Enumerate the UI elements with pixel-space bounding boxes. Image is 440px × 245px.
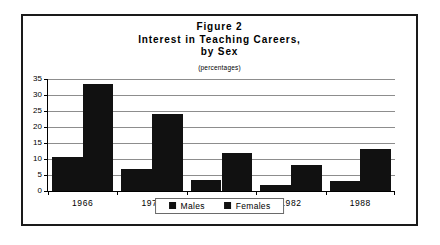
x-axis-tick xyxy=(187,191,188,195)
x-axis-tick xyxy=(256,191,257,195)
legend-swatch-icon xyxy=(224,202,231,209)
legend-label-males: Males xyxy=(181,202,205,211)
y-axis-tick xyxy=(44,111,48,112)
y-axis-label: 15 xyxy=(33,139,42,147)
x-axis-label-1988: 1988 xyxy=(350,198,371,208)
x-axis-tick xyxy=(48,191,49,195)
bar-males-1988 xyxy=(330,181,361,191)
chart-subtitle: (percentages) xyxy=(23,64,416,72)
x-axis-label-1966: 1966 xyxy=(72,198,93,208)
y-axis-tick xyxy=(44,95,48,96)
x-axis-tick xyxy=(394,191,395,195)
bar-females-1988 xyxy=(360,149,391,191)
figure-frame: Figure 2 Interest in Teaching Careers, b… xyxy=(21,14,418,226)
legend-item-males: Males xyxy=(169,202,205,211)
x-axis-tick xyxy=(117,191,118,195)
y-axis-label: 0 xyxy=(38,187,42,195)
y-axis-tick xyxy=(44,79,48,80)
y-axis-tick xyxy=(44,127,48,128)
y-axis-label: 35 xyxy=(33,75,42,83)
chart-title-line-1: Figure 2 xyxy=(23,21,416,34)
chart-title-line-3: by Sex xyxy=(23,46,416,59)
y-axis-label: 20 xyxy=(33,123,42,131)
bar-females-1982 xyxy=(291,165,322,191)
bar-females-1971 xyxy=(152,114,183,191)
chart-legend: Males Females xyxy=(155,198,285,215)
y-axis-label: 30 xyxy=(33,91,42,99)
y-axis-tick xyxy=(44,143,48,144)
chart-title-block: Figure 2 Interest in Teaching Careers, b… xyxy=(23,21,416,72)
plot-area: 0510152025303519661971197619821988 xyxy=(48,79,395,191)
x-axis-line xyxy=(48,191,395,192)
bar-females-1976 xyxy=(222,153,253,191)
bar-males-1976 xyxy=(191,180,222,191)
x-axis-tick xyxy=(326,191,327,195)
legend-swatch-icon xyxy=(169,202,176,209)
y-axis-tick xyxy=(44,175,48,176)
bars-layer xyxy=(48,79,395,191)
y-axis-label: 10 xyxy=(33,155,42,163)
bar-females-1966 xyxy=(83,84,114,191)
y-axis-label: 5 xyxy=(38,171,42,179)
bar-males-1966 xyxy=(52,157,83,191)
bar-males-1971 xyxy=(121,169,152,191)
y-axis-tick xyxy=(44,159,48,160)
legend-label-females: Females xyxy=(236,202,271,211)
y-axis-label: 25 xyxy=(33,107,42,115)
legend-item-females: Females xyxy=(224,202,271,211)
chart-title-line-2: Interest in Teaching Careers, xyxy=(23,34,416,47)
